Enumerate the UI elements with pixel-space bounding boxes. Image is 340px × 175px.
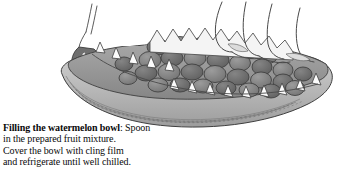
watermelon-bowl-illustration <box>0 0 340 130</box>
caption-line-3: Cover the bowl with cling film <box>3 145 253 156</box>
caption-lead: Filling the watermelon bowl <box>3 122 120 133</box>
caption-line-1-rest: : Spoon <box>120 122 150 133</box>
caption: Filling the watermelon bowl: Spoon in th… <box>3 122 253 168</box>
caption-line-4: and refrigerate until well chilled. <box>3 156 253 167</box>
figure-page: Filling the watermelon bowl: Spoon in th… <box>0 0 340 175</box>
illustration-svg <box>0 0 340 130</box>
caption-line-2: in the prepared fruit mixture. <box>3 133 253 144</box>
spoon-icon <box>79 4 97 47</box>
caption-line-1: Filling the watermelon bowl: Spoon <box>3 122 253 133</box>
